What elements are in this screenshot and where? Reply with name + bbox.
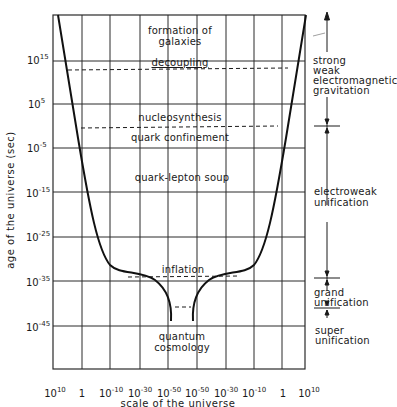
y-tick-1e-15: 10-15 — [26, 186, 50, 199]
label-four-forces: strong weak electromagnetic gravitation — [313, 56, 397, 96]
x-tick-2: 10-10 — [99, 386, 123, 399]
stray-mark — [313, 33, 325, 36]
label-nucleosynthesis: nucleosynthesis — [138, 112, 221, 123]
x-tick-0: 1010 — [44, 386, 66, 399]
y-tick-1e-25: 10-25 — [26, 230, 50, 243]
x-axis-label: scale of the universe — [121, 398, 236, 407]
x-tick-7: 10-10 — [242, 386, 266, 399]
x-tick-9: 1010 — [298, 386, 320, 399]
label-inflation: inflation — [162, 264, 205, 275]
label-grand-unification: grand unification — [314, 288, 369, 308]
y-tick-1e-5: 10-5 — [27, 141, 47, 154]
y-tick-1e15: 1015 — [27, 53, 49, 66]
y-tick-1e-35: 10-35 — [26, 275, 50, 288]
label-decoupling: decoupling — [151, 57, 208, 68]
label-quark-lepton-soup: quark-lepton soup — [135, 172, 230, 183]
label-electroweak-unification: electroweak unification — [314, 186, 377, 208]
y-tick-1e-45: 10-45 — [26, 320, 50, 333]
label-formation-of-galaxies: formation of galaxies — [148, 25, 212, 47]
label-super-unification: super unification — [315, 326, 370, 346]
y-axis-label: age of the universe (sec) — [5, 131, 16, 269]
y-tick-1e5: 105 — [28, 97, 45, 110]
horizontal-grid — [53, 61, 305, 326]
label-quark-confinement: quark confinement — [131, 132, 229, 143]
x-tick-1: 1 — [79, 386, 85, 399]
x-tick-8: 1 — [280, 386, 286, 399]
label-quantum-cosmology: quantum cosmology — [154, 331, 210, 353]
